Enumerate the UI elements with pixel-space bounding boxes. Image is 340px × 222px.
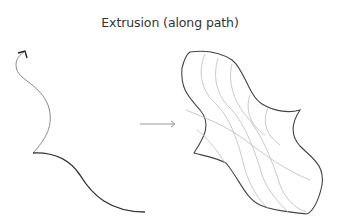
path-curve bbox=[16, 52, 50, 153]
extruded-surface-outline bbox=[182, 51, 323, 214]
right-arrow-icon bbox=[140, 121, 175, 127]
profile-curve bbox=[33, 153, 145, 212]
arrowhead-icon bbox=[18, 51, 27, 58]
diagram-canvas bbox=[0, 0, 340, 222]
